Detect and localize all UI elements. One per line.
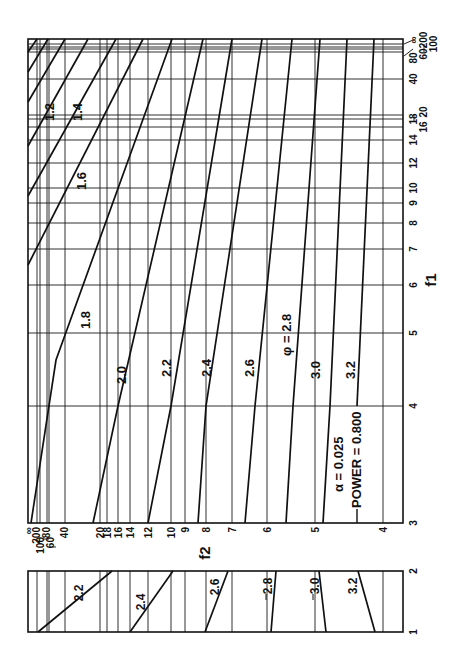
lower-panel-curve-labels: 2.2 2.4 2.6 2.8 3.0 3.2	[72, 577, 360, 610]
svg-text:6: 6	[408, 282, 419, 288]
label-phi-2.8: φ = 2.8	[279, 314, 294, 356]
svg-text:7: 7	[227, 527, 238, 533]
svg-text:∞: ∞	[408, 36, 419, 43]
svg-text:3: 3	[408, 520, 419, 526]
power-label: POWER	[349, 458, 364, 508]
label-phi-1.2: 1.2	[42, 103, 57, 121]
svg-text:α = 0.025: α = 0.025	[331, 437, 346, 492]
svg-text:16: 16	[418, 121, 429, 133]
svg-text:10: 10	[166, 527, 177, 539]
svg-text:40: 40	[408, 73, 419, 85]
label-phi-2.2: 2.2	[159, 359, 174, 377]
alpha-value: = 0.025	[331, 437, 346, 481]
svg-text:9: 9	[408, 200, 419, 206]
svg-text:40: 40	[59, 527, 70, 539]
nomograph-chart: 1.2 1.4 1.6 1.8 2.0 2.2 2.4 2.6 φ = 2.8 …	[0, 0, 464, 666]
svg-text:3.2: 3.2	[346, 577, 360, 594]
label-phi-3.2: 3.2	[343, 361, 358, 379]
svg-text:2.8: 2.8	[261, 577, 275, 594]
svg-text:16: 16	[113, 527, 124, 539]
label-phi-2.0: 2.0	[114, 366, 129, 384]
label-phi-2.6: 2.6	[242, 359, 257, 377]
lower-curve-phi-3.2	[358, 571, 375, 632]
svg-text:20: 20	[418, 106, 429, 118]
svg-text:14: 14	[125, 527, 136, 539]
svg-text:60: 60	[45, 537, 56, 549]
curve-phi-2.6	[245, 39, 292, 523]
svg-text:5: 5	[310, 527, 321, 533]
curve-phi-1.2c	[28, 39, 65, 102]
svg-text:200: 200	[418, 31, 429, 48]
svg-text:10: 10	[408, 182, 419, 194]
label-phi-2.4: 2.4	[199, 358, 214, 377]
curve-phi-2.2	[148, 39, 232, 523]
svg-text:80: 80	[41, 527, 52, 539]
svg-text:3.0: 3.0	[308, 577, 322, 594]
svg-text:100: 100	[428, 35, 439, 52]
svg-text:2.4: 2.4	[134, 593, 148, 610]
svg-text:9: 9	[180, 527, 191, 533]
svg-text:14: 14	[408, 134, 419, 146]
svg-text:4: 4	[378, 527, 389, 533]
alpha-symbol: α	[331, 484, 346, 492]
curve-phi-2.4	[198, 39, 262, 523]
svg-text:5: 5	[408, 330, 419, 336]
svg-text:18: 18	[102, 527, 113, 539]
svg-text:8: 8	[201, 527, 212, 533]
svg-text:6: 6	[262, 527, 273, 533]
svg-text:4: 4	[408, 403, 419, 409]
curve-phi-1.2	[28, 39, 37, 52]
f2-axis-title: f2	[196, 546, 213, 559]
svg-text:12: 12	[143, 527, 154, 539]
svg-text:7: 7	[408, 246, 419, 252]
label-phi-1.8: 1.8	[78, 311, 93, 329]
label-phi-1.6: 1.6	[74, 172, 89, 190]
svg-text:POWER = 0.800: POWER = 0.800	[349, 412, 364, 509]
f1-lower-axis-ticks: 1 2	[408, 568, 419, 635]
svg-text:2.2: 2.2	[72, 584, 86, 601]
label-phi-1.4: 1.4	[70, 102, 85, 121]
svg-text:8: 8	[408, 220, 419, 226]
label-phi-3.0: 3.0	[308, 361, 323, 379]
svg-text:12: 12	[408, 157, 419, 169]
power-value: = 0.800	[349, 412, 364, 456]
f1-axis-title: f1	[422, 273, 439, 286]
svg-text:2.6: 2.6	[208, 578, 222, 595]
lower-panel-curves	[38, 571, 375, 632]
svg-text:2: 2	[408, 568, 419, 574]
alpha-power-annotation: α = 0.025 POWER = 0.800	[331, 412, 364, 524]
phi-symbol: φ	[279, 347, 294, 356]
curve-phi-3.2	[357, 39, 374, 406]
svg-text:80: 80	[408, 52, 419, 64]
svg-text:1: 1	[408, 629, 419, 635]
